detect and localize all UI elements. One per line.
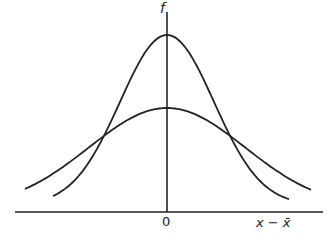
- narrow-curve: [53, 35, 289, 199]
- y-axis-label: f: [160, 0, 165, 16]
- wide-curve: [25, 108, 311, 190]
- x-axis-label: x − x̄: [256, 215, 291, 230]
- diagram: f 0 x − x̄: [0, 0, 335, 239]
- origin-label: 0: [162, 214, 170, 229]
- diagram-canvas: [0, 0, 335, 239]
